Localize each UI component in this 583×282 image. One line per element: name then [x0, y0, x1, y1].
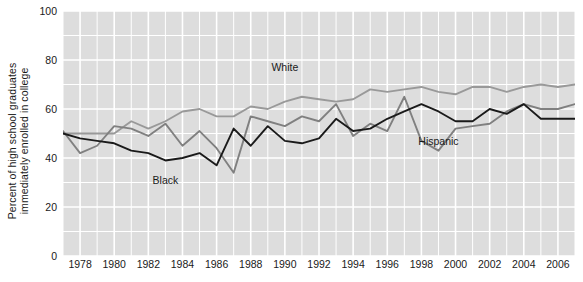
x-tick-label: 1984 — [171, 258, 194, 270]
x-tick-label: 1996 — [376, 258, 399, 270]
series-label-hispanic: Hispanic — [418, 135, 458, 147]
y-tick-label: 40 — [27, 152, 57, 164]
series-label-black: Black — [153, 174, 179, 186]
y-axis-label-line-1: Percent of high school graduates — [6, 63, 18, 220]
x-tick-label: 1998 — [410, 258, 433, 270]
plot-svg — [63, 11, 575, 256]
y-tick-label: 100 — [27, 5, 57, 17]
x-tick-label: 1992 — [307, 258, 330, 270]
y-tick-label: 60 — [27, 103, 57, 115]
line-chart: Percent of high school graduates immedia… — [0, 0, 583, 282]
x-tick-label: 2000 — [444, 258, 467, 270]
x-tick-label: 1990 — [273, 258, 296, 270]
y-tick-label: 80 — [27, 54, 57, 66]
x-tick-label: 1980 — [103, 258, 126, 270]
x-tick-label: 1978 — [68, 258, 91, 270]
x-tick-label: 2002 — [478, 258, 501, 270]
y-tick-label: 0 — [27, 250, 57, 262]
x-tick-label: 1994 — [341, 258, 364, 270]
x-tick-label: 2006 — [546, 258, 569, 270]
x-tick-label: 1986 — [205, 258, 228, 270]
x-tick-label: 2004 — [512, 258, 535, 270]
plot-area: WhiteBlackHispanic — [63, 11, 575, 256]
series-label-white: White — [271, 61, 298, 73]
x-tick-label: 1982 — [137, 258, 160, 270]
y-axis-ticks: 020406080100 — [24, 11, 57, 256]
y-tick-label: 20 — [27, 201, 57, 213]
x-tick-label: 1988 — [239, 258, 262, 270]
x-axis-ticks: 1978198019821984198619881990199219941996… — [63, 258, 575, 278]
